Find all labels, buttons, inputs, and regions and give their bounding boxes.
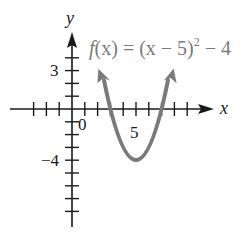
tick-label-0: 0 [78,115,87,134]
tick-label-5: 5 [130,123,139,142]
tick-label-3: 3 [50,61,59,80]
parabola-curve [104,80,168,160]
y-axis-label: y [64,8,74,28]
tick-label-neg4: −4 [41,151,60,170]
graph-canvas: x y 0 5 3 −4 f(x) = (x − 5)2 − 4 [0,0,251,237]
function-label: f(x) = (x − 5)2 − 4 [89,35,231,60]
function-label-body: (x) = (x − 5) [95,37,194,60]
y-axis [65,32,79,227]
x-axis-label: x [219,98,228,118]
